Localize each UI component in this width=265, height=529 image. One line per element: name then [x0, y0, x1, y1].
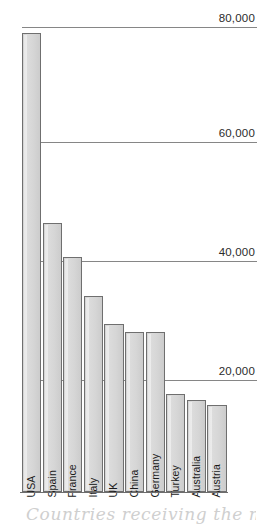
- bar-china[interactable]: [125, 332, 144, 492]
- category-label-usa: USA: [26, 476, 37, 498]
- bar-usa[interactable]: [22, 33, 41, 492]
- ytick-label-20000: 20,000: [219, 365, 255, 377]
- category-label-china: China: [129, 470, 140, 498]
- bar-france[interactable]: [63, 257, 82, 492]
- bar-sheen: [45, 225, 48, 490]
- bar-sheen: [127, 334, 130, 490]
- chart-caption-text: Countries receiving the most fo: [26, 506, 256, 524]
- axis-baseline: [20, 492, 228, 493]
- bar-spain[interactable]: [43, 223, 62, 492]
- gridline-60000: [22, 142, 257, 143]
- ytick-label-40000: 40,000: [219, 246, 255, 258]
- category-label-italy: Italy: [87, 478, 98, 498]
- bar-uk[interactable]: [104, 324, 123, 492]
- category-label-spain: Spain: [46, 470, 57, 497]
- plot-area: 80,000 60,000 40,000 20,000 USASpainFran…: [0, 0, 265, 500]
- gridline-80000: [22, 27, 257, 28]
- ytick-label-60000: 60,000: [219, 127, 255, 139]
- category-label-germany: Germany: [149, 454, 160, 498]
- chart-caption: Countries receiving the most fo: [26, 506, 256, 529]
- bar-sheen: [24, 35, 27, 490]
- bar-italy[interactable]: [84, 296, 103, 492]
- bar-sheen: [86, 298, 89, 490]
- category-label-uk: UK: [108, 483, 119, 498]
- bar-sheen: [65, 259, 68, 490]
- ytick-label-80000: 80,000: [219, 12, 255, 24]
- bar-chart: 80,000 60,000 40,000 20,000 USASpainFran…: [0, 0, 265, 529]
- bar-sheen: [106, 326, 109, 490]
